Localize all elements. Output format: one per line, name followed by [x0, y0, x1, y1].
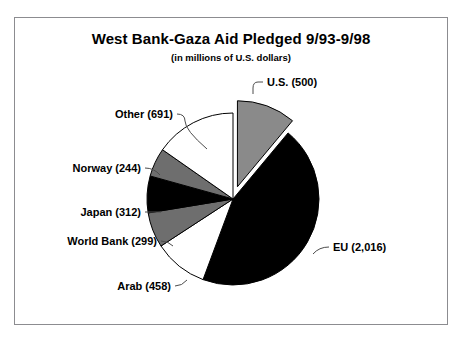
- slice-label-japan: Japan (312): [80, 206, 141, 218]
- leader-line-eu: [313, 247, 329, 254]
- slice-label-arab: Arab (458): [117, 280, 171, 292]
- slice-label-norway: Norway (244): [73, 162, 142, 174]
- slice-label-eu: EU (2,016): [333, 241, 387, 253]
- leader-line-arab: [175, 280, 187, 286]
- pie-wedges: [147, 101, 319, 285]
- chart-frame: West Bank-Gaza Aid Pledged 9/93-9/98 (in…: [14, 17, 448, 325]
- slice-label-world-bank: World Bank (299): [67, 235, 157, 247]
- slice-label-other: Other (691): [115, 108, 173, 120]
- pie-chart: U.S. (500)EU (2,016)Arab (458)World Bank…: [15, 18, 449, 326]
- leader-line-u-s: [253, 82, 263, 94]
- slice-label-u-s: U.S. (500): [267, 76, 317, 88]
